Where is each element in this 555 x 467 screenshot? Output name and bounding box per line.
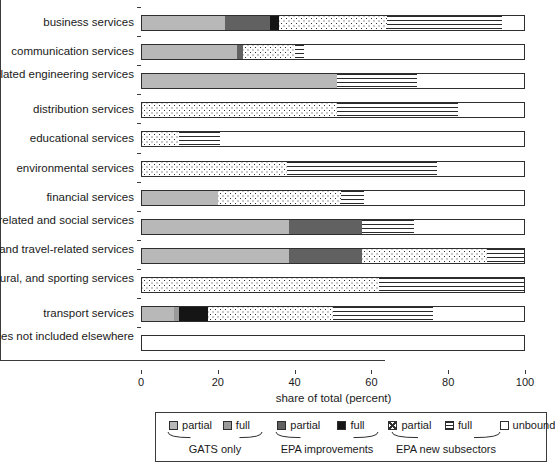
bar-segment-unbound xyxy=(414,219,525,235)
y-axis-tick xyxy=(137,153,141,154)
x-axis-tick-label: 80 xyxy=(442,376,454,388)
legend-item: partial xyxy=(388,419,431,431)
legend-label: full xyxy=(458,419,472,431)
legend-group-label: EPA new subsectors xyxy=(388,443,504,455)
bar-segment-unbound xyxy=(458,102,525,118)
legend-item: full xyxy=(337,419,364,431)
y-axis-tick xyxy=(137,240,141,241)
legend-label: partial xyxy=(290,419,320,431)
legend-item: full xyxy=(445,419,472,431)
stacked-bar xyxy=(141,219,525,235)
category-label: environmental services xyxy=(0,162,134,175)
legend-item: full xyxy=(223,419,250,431)
bar-segment-epa-partial xyxy=(289,219,362,235)
bar-segment-new-partial xyxy=(218,190,341,206)
bar-segment-unbound xyxy=(304,44,525,60)
bar-segment-gats-partial xyxy=(141,15,225,31)
bar-row: tourism and travel-related services xyxy=(0,247,554,265)
bar-segment-new-full xyxy=(362,219,414,235)
y-axis-tick xyxy=(137,298,141,299)
stacked-bar xyxy=(141,335,525,351)
x-axis-tick xyxy=(525,370,526,374)
category-label: construction and related engineering ser… xyxy=(0,68,134,81)
category-label: communication services xyxy=(0,45,134,58)
bar-segment-new-full xyxy=(287,161,437,177)
legend-label: full xyxy=(350,419,364,431)
bar-segment-new-full xyxy=(337,102,458,118)
bar-segment-new-partial xyxy=(243,44,295,60)
bar-row: other services not included elsewhere xyxy=(0,334,554,352)
category-label: educational services xyxy=(0,132,134,145)
category-label: recreational, cultural, and sporting ser… xyxy=(0,272,134,285)
stacked-bar xyxy=(141,102,525,118)
bar-row: communication services xyxy=(0,43,554,61)
legend-swatch-epa-partial-icon xyxy=(277,421,286,430)
bar-row: health-related and social services xyxy=(0,218,554,236)
legend-swatch-gats-partial-icon xyxy=(169,421,178,430)
legend-label: partial xyxy=(182,419,212,431)
bar-row: recreational, cultural, and sporting ser… xyxy=(0,276,554,294)
x-axis-tick-label: 60 xyxy=(365,376,377,388)
y-axis-tick xyxy=(137,94,141,95)
bar-segment-new-full xyxy=(379,277,525,293)
bar-row: financial services xyxy=(0,189,554,207)
bar-segment-new-partial xyxy=(362,248,487,264)
bar-row: environmental services xyxy=(0,160,554,178)
bar-segment-gats-partial xyxy=(141,73,337,89)
bar-segment-new-full xyxy=(179,131,219,147)
legend-swatch-new-full-icon xyxy=(445,421,454,430)
legend-swatch-epa-full-icon xyxy=(337,421,346,430)
legend-label: partial xyxy=(401,419,431,431)
x-axis-tick xyxy=(295,370,296,374)
bar-segment-epa-partial xyxy=(225,15,269,31)
bar-row: business services xyxy=(0,14,554,32)
legend-label: unbound xyxy=(513,419,555,431)
bar-segment-epa-partial xyxy=(289,248,362,264)
bar-segment-new-full xyxy=(295,44,305,60)
y-axis-tick xyxy=(137,182,141,183)
bar-segment-new-full xyxy=(333,306,433,322)
y-axis-tick xyxy=(137,65,141,66)
bar-segment-new-partial xyxy=(141,102,337,118)
bar-segment-new-partial xyxy=(141,161,287,177)
bar-row: construction and related engineering ser… xyxy=(0,72,554,90)
stacked-bar xyxy=(141,131,525,147)
stacked-bar xyxy=(141,277,525,293)
stacked-bar xyxy=(141,190,525,206)
bar-segment-new-partial xyxy=(141,131,179,147)
stacked-bar xyxy=(141,248,525,264)
x-axis-tick xyxy=(141,370,142,374)
x-axis-tick-label: 0 xyxy=(138,376,144,388)
chart-legend: partialfullpartialfullpartialfullunbound… xyxy=(155,412,547,462)
stacked-bar xyxy=(141,44,525,60)
bar-segment-unbound xyxy=(417,73,525,89)
legend-group-label: EPA improvements xyxy=(272,443,382,455)
legend-item: partial xyxy=(277,419,320,431)
y-axis-tick xyxy=(137,327,141,328)
category-label: other services not included elsewhere xyxy=(0,330,134,343)
legend-item: partial xyxy=(169,419,212,431)
bar-row: transport services xyxy=(0,305,554,323)
bar-segment-new-full xyxy=(487,248,525,264)
y-axis-tick xyxy=(137,269,141,270)
bar-segment-new-partial xyxy=(141,277,379,293)
bar-segment-gats-partial xyxy=(141,190,218,206)
category-label: health-related and social services xyxy=(0,214,134,227)
x-axis-tick xyxy=(218,370,219,374)
bar-segment-new-partial xyxy=(208,306,333,322)
x-axis-tick-label: 100 xyxy=(516,376,534,388)
bar-segment-epa-full xyxy=(179,306,208,322)
bar-segment-new-full xyxy=(341,190,364,206)
legend-group-label: GATS only xyxy=(164,443,266,455)
y-axis-tick xyxy=(137,211,141,212)
legend-swatch-new-partial-icon xyxy=(388,421,397,430)
x-axis-tick xyxy=(448,370,449,374)
category-label: business services xyxy=(0,16,134,29)
bar-segment-unbound xyxy=(433,306,525,322)
x-axis-line xyxy=(0,360,385,361)
category-label: transport services xyxy=(0,307,134,320)
category-label: financial services xyxy=(0,191,134,204)
category-label: tourism and travel-related services xyxy=(0,243,134,256)
legend-item: unbound xyxy=(500,419,555,431)
